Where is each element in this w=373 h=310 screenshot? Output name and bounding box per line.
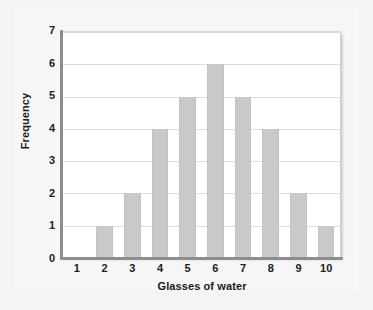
y-tick-label-5: 5 bbox=[33, 90, 55, 101]
plot-area bbox=[63, 31, 341, 258]
gridline-3 bbox=[63, 161, 340, 162]
bar-7 bbox=[235, 97, 252, 258]
x-tick-label-5: 5 bbox=[185, 263, 191, 274]
y-axis-line bbox=[60, 30, 63, 260]
x-tick-label-8: 8 bbox=[268, 263, 274, 274]
x-axis-title: Glasses of water bbox=[63, 280, 341, 292]
figure-container: 01234567 12345678910 Frequency Glasses o… bbox=[0, 0, 373, 310]
y-axis-title: Frequency bbox=[19, 71, 31, 171]
gridline-7 bbox=[63, 32, 340, 33]
x-tick-label-1: 1 bbox=[74, 263, 80, 274]
x-tick-label-9: 9 bbox=[295, 263, 301, 274]
bar-3 bbox=[124, 193, 141, 258]
bar-5 bbox=[179, 97, 196, 258]
y-tick-label-3: 3 bbox=[33, 155, 55, 166]
bar-10 bbox=[318, 226, 335, 258]
y-tick-label-4: 4 bbox=[33, 122, 55, 133]
bar-6 bbox=[207, 64, 224, 258]
x-axis-line bbox=[60, 257, 343, 260]
y-tick-label-7: 7 bbox=[33, 25, 55, 36]
bar-2 bbox=[96, 226, 113, 258]
bar-4 bbox=[152, 129, 169, 258]
y-tick-label-6: 6 bbox=[33, 57, 55, 68]
x-tick-label-4: 4 bbox=[157, 263, 163, 274]
x-axis-tick-labels: 12345678910 bbox=[63, 263, 341, 277]
bar-9 bbox=[290, 193, 307, 258]
x-tick-label-3: 3 bbox=[129, 263, 135, 274]
x-tick-label-10: 10 bbox=[320, 263, 332, 274]
gridline-6 bbox=[63, 64, 340, 65]
y-axis-tick-labels: 01234567 bbox=[31, 30, 55, 258]
bar-8 bbox=[262, 129, 279, 258]
y-tick-label-0: 0 bbox=[33, 253, 55, 264]
x-tick-label-6: 6 bbox=[212, 263, 218, 274]
x-tick-label-7: 7 bbox=[240, 263, 246, 274]
gridline-4 bbox=[63, 129, 340, 130]
x-tick-label-2: 2 bbox=[101, 263, 107, 274]
y-tick-label-2: 2 bbox=[33, 187, 55, 198]
gridline-5 bbox=[63, 97, 340, 98]
y-tick-label-1: 1 bbox=[33, 220, 55, 231]
